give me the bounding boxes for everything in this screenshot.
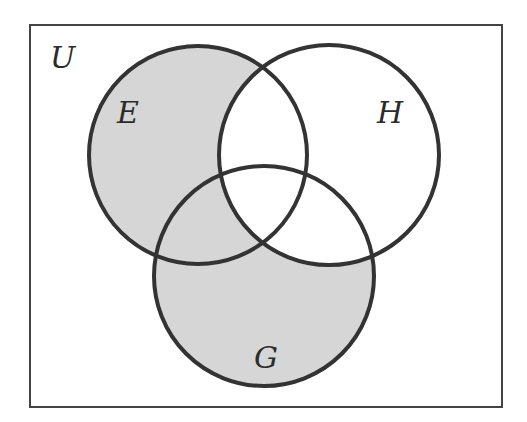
set-g-label: G	[254, 340, 278, 375]
set-e-label: E	[116, 95, 139, 130]
venn-diagram: U E H G	[0, 0, 527, 422]
universe-label: U	[50, 40, 77, 75]
set-h-label: H	[376, 95, 404, 130]
